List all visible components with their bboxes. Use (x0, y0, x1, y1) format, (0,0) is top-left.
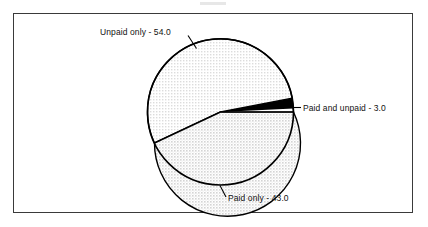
pie-chart-graphic (0, 0, 428, 227)
pie-label-unpaid-only: Unpaid only - 54.0 (100, 27, 171, 37)
pie-label-paid-and-unpaid: Paid and unpaid - 3.0 (303, 103, 386, 113)
pie-chart-figure: Unpaid only - 54.0 Paid and unpaid - 3.0… (0, 0, 428, 227)
pie-label-paid-only: Paid only - 43.0 (228, 193, 289, 203)
